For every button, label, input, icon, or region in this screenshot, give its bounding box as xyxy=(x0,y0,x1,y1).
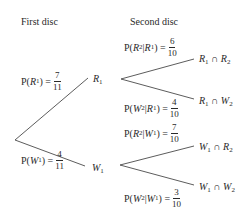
fraction: 411 xyxy=(55,150,64,171)
numerator: 4 xyxy=(56,150,63,161)
prob-r2-given-w1: P(R2 | W1) = 710 xyxy=(124,123,179,144)
prob-text: ) = xyxy=(40,77,51,87)
node-w1: W1 xyxy=(92,163,104,175)
header-first-disc: First disc xyxy=(21,17,58,27)
prob-w2-given-w1: P(W2 | W1) = 310 xyxy=(124,188,181,209)
event-symbol: W xyxy=(30,156,38,166)
numerator: 7 xyxy=(54,71,61,82)
outcome-w1-and-w2: W1 ∩ W2 xyxy=(199,182,235,194)
fraction: 410 xyxy=(170,98,179,119)
prob-text: ) = xyxy=(42,156,53,166)
branch-w1-to-w2 xyxy=(120,165,194,185)
branch-w1-to-r2 xyxy=(120,146,194,165)
denominator: 11 xyxy=(55,161,64,171)
outcome-w1-and-r2: W1 ∩ R2 xyxy=(199,142,233,154)
prob-w1: P(W1) = 411 xyxy=(21,150,64,171)
fraction: 711 xyxy=(53,71,62,92)
prob-w2-given-r1: P(W2 | R1) = 410 xyxy=(124,98,179,119)
prob-text: P( xyxy=(21,77,30,87)
fraction: 310 xyxy=(172,188,181,209)
prob-r2-given-r1: P(R2 | R1) = 610 xyxy=(124,37,177,58)
outcome-r1-and-w2: R1 ∩ W2 xyxy=(199,96,233,108)
branch-r1-to-r2 xyxy=(121,59,194,79)
branch-r1-to-w2 xyxy=(121,79,194,99)
outcome-r1-and-r2: R1 ∩ R2 xyxy=(199,54,230,66)
fraction: 710 xyxy=(170,123,179,144)
fraction: 610 xyxy=(168,37,177,58)
prob-r1: P(R1) = 711 xyxy=(21,71,62,92)
prob-text: P( xyxy=(21,156,30,166)
header-second-disc: Second disc xyxy=(130,17,178,27)
node-r1: R1 xyxy=(93,74,103,86)
denominator: 11 xyxy=(53,82,62,92)
